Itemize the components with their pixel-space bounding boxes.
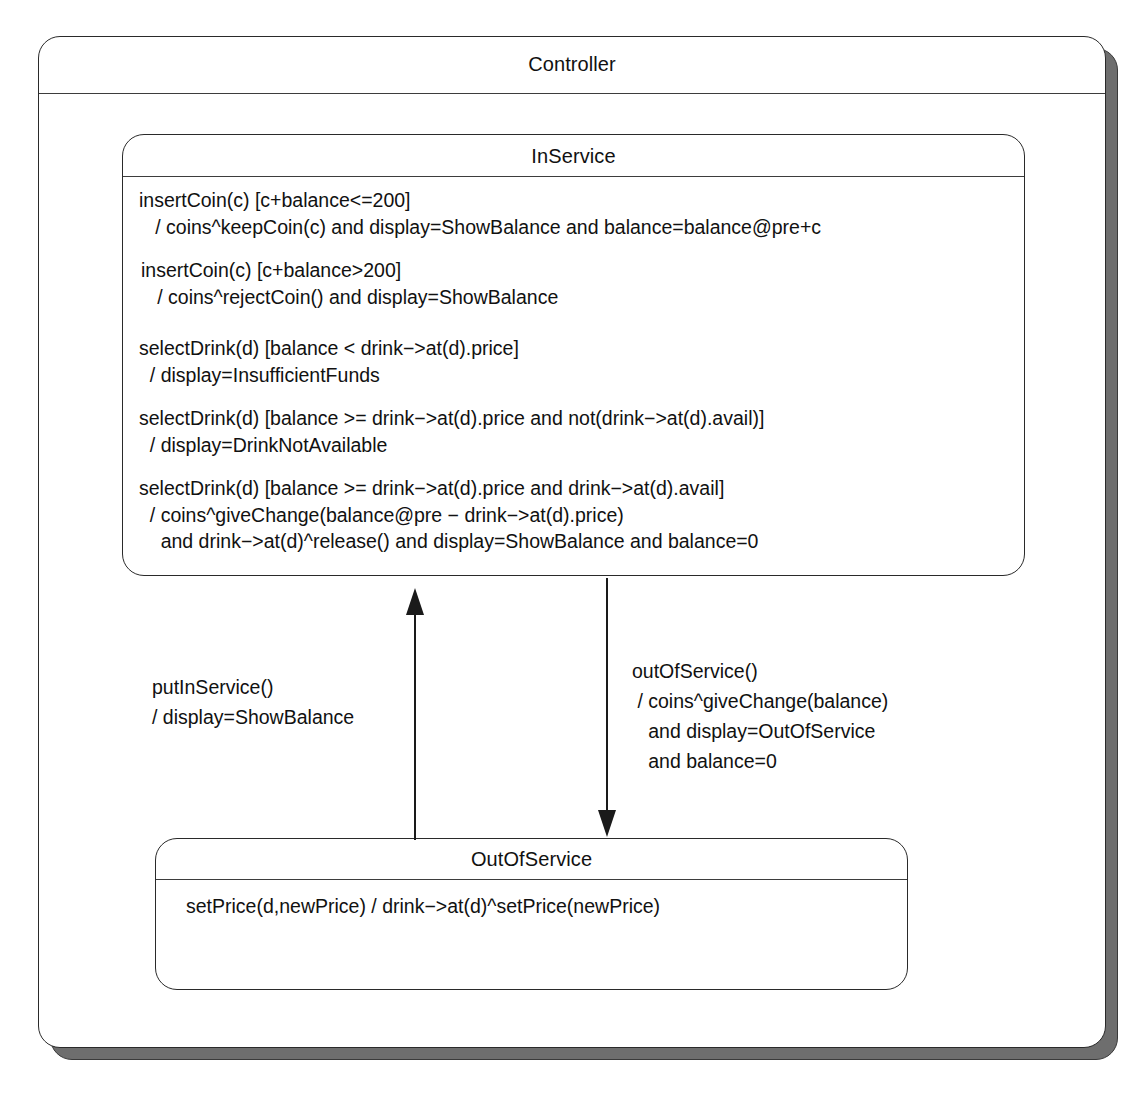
- put-in-service-arrow-line[interactable]: [414, 612, 416, 840]
- out-of-service-arrowhead-icon: [598, 810, 616, 837]
- outofservice-title-divider: [156, 879, 907, 880]
- controller-title-divider: [39, 93, 1105, 94]
- transition-select-drink-dispense: selectDrink(d) [balance >= drink−>at(d).…: [139, 475, 758, 555]
- transition-select-drink-insufficient: selectDrink(d) [balance < drink−>at(d).p…: [139, 335, 519, 388]
- outofservice-state-title: OutOfService: [156, 848, 907, 871]
- transition-set-price: setPrice(d,newPrice) / drink−>at(d)^setP…: [186, 893, 660, 920]
- out-of-service-arrow-line[interactable]: [606, 578, 608, 812]
- out-of-service-transition-label: outOfService() / coins^giveChange(balanc…: [632, 656, 888, 776]
- state-machine-diagram: Controller InService insertCoin(c) [c+ba…: [0, 0, 1135, 1101]
- transition-insert-coin-accept: insertCoin(c) [c+balance<=200] / coins^k…: [139, 187, 821, 240]
- transition-select-drink-unavailable: selectDrink(d) [balance >= drink−>at(d).…: [139, 405, 764, 458]
- transition-insert-coin-reject: insertCoin(c) [c+balance>200] / coins^re…: [141, 257, 558, 310]
- put-in-service-transition-label: putInService() / display=ShowBalance: [152, 672, 354, 732]
- inservice-state[interactable]: InService insertCoin(c) [c+balance<=200]…: [122, 134, 1025, 576]
- put-in-service-arrowhead-icon: [406, 588, 424, 615]
- controller-state-title: Controller: [39, 53, 1105, 76]
- inservice-title-divider: [123, 176, 1024, 177]
- outofservice-state[interactable]: OutOfService setPrice(d,newPrice) / drin…: [155, 838, 908, 990]
- inservice-state-title: InService: [123, 145, 1024, 168]
